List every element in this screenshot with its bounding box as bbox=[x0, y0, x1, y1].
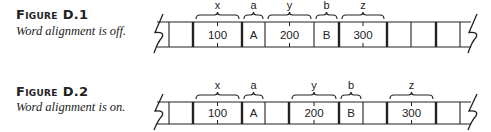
cell-value: B bbox=[323, 29, 331, 41]
cell-value: A bbox=[250, 29, 258, 41]
word-alignment-diagram: 100A200B300xaybz100A200B300xaybz bbox=[0, 0, 491, 132]
field-label: b bbox=[323, 0, 329, 11]
cell-value: A bbox=[250, 107, 258, 119]
cell-value: 300 bbox=[353, 29, 372, 41]
field-label: x bbox=[215, 0, 221, 11]
memory-strip-2: 100A200B300xaybz bbox=[154, 79, 477, 130]
field-label: b bbox=[348, 79, 354, 91]
field-label: y bbox=[287, 0, 293, 11]
cell-value: 200 bbox=[304, 107, 323, 119]
brace-icon bbox=[341, 92, 361, 99]
field-label: y bbox=[311, 79, 317, 91]
brace-icon bbox=[196, 92, 239, 99]
field-label: z bbox=[360, 0, 366, 11]
cell-value: 100 bbox=[208, 107, 227, 119]
field-label: a bbox=[250, 0, 257, 11]
brace-icon bbox=[196, 12, 239, 19]
brace-icon bbox=[316, 12, 337, 19]
brace-icon bbox=[342, 12, 384, 19]
cell-value: B bbox=[347, 107, 355, 119]
field-label: a bbox=[250, 79, 257, 91]
brace-icon bbox=[268, 12, 311, 19]
brace-icon bbox=[390, 92, 433, 99]
field-label: x bbox=[215, 79, 221, 91]
brace-icon bbox=[244, 92, 263, 99]
cell-value: 200 bbox=[280, 29, 299, 41]
brace-icon bbox=[244, 12, 263, 19]
field-label: z bbox=[409, 79, 415, 91]
cell-value: 300 bbox=[402, 107, 421, 119]
cell-value: 100 bbox=[208, 29, 227, 41]
brace-icon bbox=[292, 92, 336, 99]
memory-strip-1: 100A200B300xaybz bbox=[154, 0, 477, 53]
